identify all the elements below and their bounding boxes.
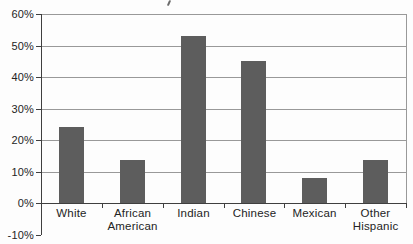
- y-axis-label-20: 20%: [0, 134, 34, 146]
- y-axis-label-40: 40%: [0, 71, 34, 83]
- bar-chinese: [241, 61, 266, 203]
- x-axis-label-line: American: [102, 220, 163, 233]
- x-axis-label-line: Indian: [163, 207, 224, 220]
- y-tick-60: [36, 14, 41, 15]
- gridline-20: [41, 140, 406, 141]
- y-tick--10: [36, 235, 41, 236]
- bar-african-american: [120, 160, 145, 203]
- x-axis-label-mexican: Mexican: [284, 207, 345, 220]
- y-axis-label-30: 30%: [0, 103, 34, 115]
- bar-chart-figure: 60%50%40%30%20%10%0%-10%WhiteAfricanAmer…: [0, 0, 413, 244]
- y-tick-20: [36, 140, 41, 141]
- y-tick-10: [36, 172, 41, 173]
- bar-white: [59, 127, 84, 203]
- y-axis-label-60: 60%: [0, 8, 34, 20]
- y-tick-50: [36, 46, 41, 47]
- bar-other-hispanic: [363, 160, 388, 203]
- x-axis-label-line: Chinese: [224, 207, 285, 220]
- x-axis-label-indian: Indian: [163, 207, 224, 220]
- y-axis-line: [41, 14, 42, 235]
- y-tick-40: [36, 77, 41, 78]
- bar-mexican: [302, 178, 327, 203]
- gridline-40: [41, 77, 406, 78]
- gridline-60: [41, 14, 406, 15]
- gridline-50: [41, 46, 406, 47]
- x-axis-label-african-american: AfricanAmerican: [102, 207, 163, 233]
- x-axis-label-line: Other: [345, 207, 406, 220]
- y-tick-30: [36, 109, 41, 110]
- x-axis-label-line: African: [102, 207, 163, 220]
- x-axis-label-other-hispanic: OtherHispanic: [345, 207, 406, 233]
- gridline-30: [41, 109, 406, 110]
- y-axis-label-0: 0%: [0, 197, 34, 209]
- bar-indian: [181, 36, 206, 203]
- x-axis-label-line: Hispanic: [345, 220, 406, 233]
- x-axis-label-chinese: Chinese: [224, 207, 285, 220]
- cropped-title-fragment-mark: [167, 0, 171, 6]
- y-axis-label--10: -10%: [0, 229, 34, 241]
- x-axis-label-line: White: [41, 207, 102, 220]
- x-axis-label-white: White: [41, 207, 102, 220]
- y-axis-label-50: 50%: [0, 40, 34, 52]
- x-axis-label-line: Mexican: [284, 207, 345, 220]
- gridline-10: [41, 172, 406, 173]
- plot-right-border: [406, 14, 407, 203]
- y-axis-label-10: 10%: [0, 166, 34, 178]
- x-tick-6: [406, 203, 407, 208]
- y-tick-0: [36, 203, 41, 204]
